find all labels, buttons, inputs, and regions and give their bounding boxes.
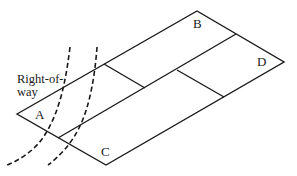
parcel-diagram bbox=[0, 0, 297, 176]
parcel-a-label: A bbox=[35, 108, 44, 121]
parcel-outline bbox=[17, 11, 284, 165]
upper-strip-divider bbox=[104, 64, 145, 88]
parcel-c-label: C bbox=[101, 145, 110, 158]
right-of-way-label-line2: way bbox=[17, 86, 38, 99]
right-of-way-boundary-right bbox=[48, 47, 97, 165]
middle-divider-line bbox=[58, 34, 236, 138]
parcel-b-label: B bbox=[193, 17, 202, 30]
lower-strip-divider bbox=[177, 70, 224, 97]
parcel-d-label: D bbox=[257, 55, 266, 68]
